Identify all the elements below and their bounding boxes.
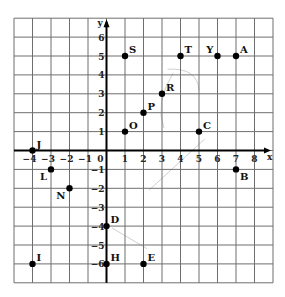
point-P: P — [140, 101, 155, 116]
point-label: B — [240, 171, 248, 182]
point-label: R — [166, 82, 175, 93]
x-tick-label: −2 — [60, 154, 74, 164]
point-marker-icon — [214, 53, 220, 59]
point-marker-icon — [233, 53, 239, 59]
x-tick-label: 2 — [140, 154, 146, 164]
x-tick-label: −3 — [41, 154, 55, 164]
point-I: I — [29, 252, 41, 267]
y-tick-label: −6 — [91, 259, 105, 269]
point-R: R — [159, 82, 175, 97]
y-tick-label: 4 — [98, 70, 104, 80]
faint-line — [112, 228, 147, 249]
x-tick-label: 5 — [196, 154, 202, 164]
x-tick-label: 3 — [159, 154, 165, 164]
point-marker-icon — [29, 261, 35, 267]
point-label: D — [111, 214, 120, 225]
x-tick-label: −1 — [78, 154, 92, 164]
point-marker-icon — [103, 261, 109, 267]
point-marker-icon — [48, 166, 54, 172]
point-T: T — [177, 44, 192, 59]
point-label: Y — [205, 44, 214, 55]
point-label: S — [129, 44, 136, 55]
point-B: B — [233, 166, 249, 182]
point-label: J — [36, 139, 42, 150]
point-marker-icon — [29, 147, 35, 153]
point-label: T — [185, 44, 193, 55]
point-label: E — [148, 252, 156, 263]
y-tick-label: 3 — [98, 89, 104, 99]
point-A: A — [233, 44, 248, 59]
point-N: N — [56, 185, 72, 201]
point-S: S — [122, 44, 136, 59]
x-tick-label: 6 — [214, 154, 220, 164]
x-tick-label: 7 — [233, 154, 239, 164]
point-marker-icon — [177, 53, 183, 59]
point-O: O — [122, 120, 138, 135]
point-marker-icon — [66, 185, 72, 191]
point-label: O — [129, 120, 138, 131]
point-Y: Y — [205, 44, 220, 59]
point-label: P — [148, 101, 156, 112]
y-tick-label: 1 — [98, 127, 104, 137]
x-axis-label: x — [267, 152, 273, 162]
point-marker-icon — [140, 110, 146, 116]
y-tick-label: −1 — [91, 165, 105, 175]
y-tick-label: −4 — [91, 222, 105, 232]
coordinate-plane: xy −4−3−2−1012345678654321−1−2−3−4−5−6 J… — [0, 0, 285, 297]
faint-line — [149, 139, 205, 190]
y-tick-label: −2 — [91, 184, 105, 194]
point-label: H — [111, 252, 120, 263]
y-tick-label: −5 — [91, 241, 105, 251]
point-E: E — [140, 252, 155, 267]
point-C: C — [196, 120, 211, 135]
y-tick-label: −3 — [91, 203, 105, 213]
point-label: C — [203, 120, 211, 131]
point-label: I — [37, 252, 42, 263]
y-tick-label: 6 — [98, 33, 104, 43]
point-L: L — [40, 166, 54, 182]
point-marker-icon — [103, 223, 109, 229]
point-marker-icon — [196, 128, 202, 134]
y-axis-arrow-icon — [104, 19, 110, 27]
point-marker-icon — [122, 128, 128, 134]
point-label: L — [40, 171, 47, 182]
point-marker-icon — [140, 261, 146, 267]
point-marker-icon — [233, 166, 239, 172]
y-axis-label: y — [97, 18, 104, 28]
point-marker-icon — [122, 53, 128, 59]
y-tick-label: 5 — [98, 52, 104, 62]
x-tick-label: 4 — [177, 154, 183, 164]
x-tick-label: −4 — [23, 154, 37, 164]
x-tick-label: 0 — [97, 154, 103, 164]
point-label: N — [56, 190, 65, 201]
x-tick-label: 1 — [122, 154, 128, 164]
point-label: A — [239, 44, 248, 55]
x-tick-label: 8 — [251, 154, 257, 164]
y-tick-label: 2 — [98, 108, 104, 118]
point-marker-icon — [159, 91, 165, 97]
